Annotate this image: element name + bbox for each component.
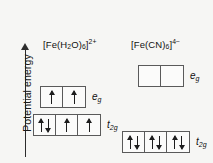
spin-down-arrow-icon (134, 135, 141, 150)
orbital-level-label-cyano-eg: eg (190, 70, 199, 82)
orbital-box (63, 87, 85, 107)
spin-up-arrow-icon (86, 118, 93, 133)
spin-down-arrow-icon (45, 118, 52, 133)
orbital-level-aqua-eg: eg (40, 86, 101, 108)
orbital-box (145, 132, 167, 152)
complex-title-cyano: [Fe(CN)6]4− (131, 38, 180, 50)
spin-up-arrow-icon (63, 118, 70, 133)
spin-up-arrow-icon (38, 118, 45, 133)
electron-spin-group (171, 135, 185, 150)
crystal-field-splitting-diagram: Potential energy [Fe(H2O)6]2+ [Fe(CN)6]4… (0, 0, 213, 163)
complex-title-cyano-charge: 4− (172, 38, 180, 45)
spin-up-arrow-icon (149, 135, 156, 150)
complex-title-aqua-charge: 2+ (89, 38, 97, 45)
electron-spin-group (71, 90, 78, 105)
orbital-box (139, 66, 161, 86)
orbital-level-cyano-t2g: t2g (122, 131, 207, 153)
spin-down-arrow-icon (178, 135, 185, 150)
spin-up-arrow-icon (127, 135, 134, 150)
spin-up-arrow-icon (71, 90, 78, 105)
orbital-level-aqua-t2g: t2g (33, 114, 118, 136)
spin-up-arrow-icon (48, 90, 55, 105)
orbital-box (123, 132, 145, 152)
complex-title-cyano-prefix: [Fe(CN) (131, 39, 165, 50)
level-label-sub: 2g (199, 141, 207, 148)
orbital-box-group-cyano-eg (138, 65, 184, 87)
orbital-box (41, 87, 63, 107)
orbital-box (161, 66, 183, 86)
complex-title-aqua-prefix: [Fe(H (43, 39, 67, 50)
electron-spin-group (48, 90, 55, 105)
electron-spin-group (38, 118, 52, 133)
orbital-box (56, 115, 78, 135)
orbital-level-label-aqua-t2g: t2g (107, 119, 118, 131)
potential-energy-axis-label: Potential energy (21, 38, 33, 148)
electron-spin-group (86, 118, 93, 133)
electron-spin-group (127, 135, 141, 150)
orbital-level-cyano-eg: eg (138, 65, 199, 87)
orbital-box (167, 132, 189, 152)
orbital-box-group-cyano-t2g (122, 131, 190, 153)
level-label-sub: g (98, 96, 102, 103)
level-label-sub: 2g (110, 124, 118, 131)
electron-spin-group (63, 118, 70, 133)
orbital-level-label-cyano-t2g: t2g (196, 136, 207, 148)
complex-title-aqua: [Fe(H2O)6]2+ (43, 38, 97, 50)
orbital-box-group-aqua-eg (40, 86, 86, 108)
complex-title-aqua-mid: O) (71, 39, 82, 50)
spin-up-arrow-icon (171, 135, 178, 150)
orbital-box (78, 115, 100, 135)
spin-down-arrow-icon (156, 135, 163, 150)
electron-spin-group (149, 135, 163, 150)
orbital-box-group-aqua-t2g (33, 114, 101, 136)
orbital-box (34, 115, 56, 135)
orbital-level-label-aqua-eg: eg (92, 91, 101, 103)
level-label-sub: g (196, 75, 200, 82)
